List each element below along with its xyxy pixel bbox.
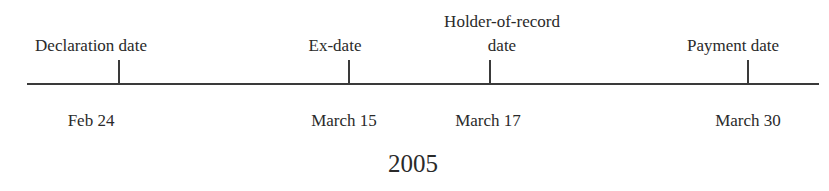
timeline-axis (27, 83, 819, 85)
event-date-holder-of-record: March 17 (455, 111, 521, 130)
timeline-year: 2005 (388, 150, 438, 178)
event-label-holder-of-record-line2: date (488, 36, 516, 55)
tick-declaration-date (118, 60, 120, 84)
event-date-payment: March 30 (715, 111, 781, 130)
event-label-declaration: Declaration date (35, 36, 147, 55)
event-label-ex-date: Ex-date (309, 36, 362, 55)
tick-ex-date (348, 60, 350, 84)
event-label-payment: Payment date (687, 36, 779, 55)
tick-holder-of-record-date (489, 60, 491, 84)
event-date-declaration: Feb 24 (68, 111, 115, 130)
tick-payment-date (747, 60, 749, 84)
event-date-ex-date: March 15 (311, 111, 377, 130)
event-label-holder-of-record-line1: Holder-of-record (444, 12, 560, 31)
